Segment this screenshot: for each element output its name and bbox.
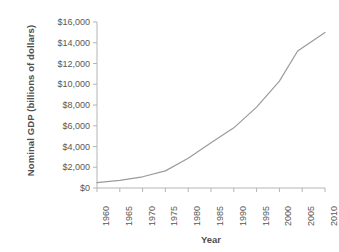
x-tick-label: 1960 [101,206,111,226]
y-tick-label: $12,000 [28,59,90,69]
y-tick-label: $6,000 [28,121,90,131]
x-tick-label: 1985 [215,206,225,226]
x-tick-label: 2000 [283,206,293,226]
x-axis-title: Year [97,234,325,245]
y-tick-label: $4,000 [28,142,90,152]
axis-lines [97,22,325,188]
x-tick-label: 2005 [306,206,316,226]
y-tick-label: $2,000 [28,162,90,172]
y-tick-label: $14,000 [28,38,90,48]
x-tick-label: 2010 [329,206,339,226]
y-axis-tick-labels: $0$2,000$4,000$6,000$8,000$10,000$12,000… [28,14,90,188]
y-tick-label: $8,000 [28,100,90,110]
x-tick-label: 1990 [238,206,248,226]
x-axis-tick-labels: 1960196519701975198019851990199520002005… [97,192,332,232]
data-line-nominal-gdp [97,32,325,182]
y-tick-label: $10,000 [28,79,90,89]
x-tick-label: 1975 [169,206,179,226]
plot-svg [97,22,325,188]
x-tick-label: 1970 [147,206,157,226]
axis-ticks [93,22,325,192]
plot-area [97,22,325,188]
y-tick-label: $0 [28,183,90,193]
y-tick-label: $16,000 [28,17,90,27]
x-tick-label: 1995 [261,206,271,226]
x-tick-label: 1980 [192,206,202,226]
x-tick-label: 1965 [124,206,134,226]
data-series-group [97,32,325,182]
